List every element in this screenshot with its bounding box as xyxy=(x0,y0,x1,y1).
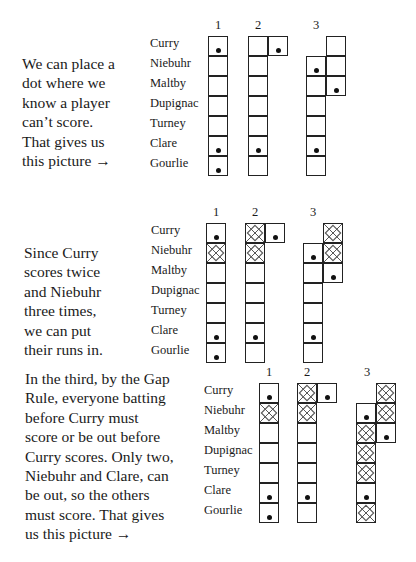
explanation-text: Since Curryscores twiceand Niebuhrthree … xyxy=(24,243,103,359)
out-cell xyxy=(206,243,226,263)
score-cell xyxy=(208,76,228,96)
score-cell xyxy=(259,423,279,443)
explanation-text: We can place adot where weknow a playerc… xyxy=(22,54,115,170)
explanation-text: In the third, by the GapRule, everyone b… xyxy=(25,369,174,544)
score-cell xyxy=(306,156,326,176)
player-names: CurryNiebuhrMaltbyDupignacTurneyClareGou… xyxy=(204,380,253,520)
score-cell xyxy=(245,343,265,363)
out-cell xyxy=(297,403,317,423)
score-cell xyxy=(248,36,268,56)
no-score-cell xyxy=(208,36,228,56)
score-cell xyxy=(306,116,326,136)
score-cell xyxy=(303,303,323,323)
text-line: know a player xyxy=(22,93,115,112)
text-line: That gives us xyxy=(22,132,115,151)
crossed-diamond-icon xyxy=(324,244,342,262)
player-name: Niebuhr xyxy=(204,400,253,420)
no-score-cell xyxy=(265,223,285,243)
no-score-cell xyxy=(356,403,376,423)
player-names: CurryNiebuhrMaltbyDupignacTurneyClareGou… xyxy=(150,33,199,173)
crossed-diamond-icon xyxy=(357,424,375,442)
score-cell xyxy=(206,283,226,303)
text-line: this picture → xyxy=(22,151,115,170)
no-score-cell xyxy=(245,323,265,343)
crossed-diamond-icon xyxy=(298,384,316,402)
innings-label: 3 xyxy=(303,205,323,220)
text-line: we can put xyxy=(24,321,103,340)
score-cell xyxy=(306,76,326,96)
score-cell xyxy=(306,96,326,116)
no-score-cell xyxy=(259,483,279,503)
crossed-diamond-icon xyxy=(207,244,225,262)
out-cell xyxy=(356,503,376,523)
out-cell xyxy=(376,403,396,423)
crossed-diamond-icon xyxy=(377,384,395,402)
innings-label: 2 xyxy=(297,365,317,380)
player-name: Curry xyxy=(151,220,200,240)
crossed-diamond-icon xyxy=(246,224,264,242)
out-cell xyxy=(259,403,279,423)
player-name: Clare xyxy=(204,480,253,500)
score-cell xyxy=(297,423,317,443)
out-cell xyxy=(297,383,317,403)
player-name: Maltby xyxy=(151,260,200,280)
score-cell xyxy=(248,96,268,116)
text-line: Curry scores. Only two, xyxy=(25,447,174,466)
player-name: Curry xyxy=(150,33,199,53)
text-line: Niebuhr and Clare, can xyxy=(25,466,174,485)
no-score-cell xyxy=(208,156,228,176)
text-line: score or be out before xyxy=(25,427,174,446)
no-score-cell xyxy=(259,383,279,403)
player-name: Gourlie xyxy=(150,153,199,173)
score-cell xyxy=(303,343,323,363)
score-cell xyxy=(206,303,226,323)
score-cell xyxy=(297,503,317,523)
crossed-diamond-icon xyxy=(357,464,375,482)
no-score-cell xyxy=(303,323,323,343)
no-score-cell xyxy=(206,223,226,243)
no-score-cell xyxy=(323,263,343,283)
innings-label: 2 xyxy=(248,18,268,33)
crossed-diamond-icon xyxy=(357,504,375,522)
out-cell xyxy=(245,223,265,243)
player-name: Niebuhr xyxy=(151,240,200,260)
score-cell xyxy=(208,96,228,116)
no-score-cell xyxy=(206,343,226,363)
player-names: CurryNiebuhrMaltbyDupignacTurneyClareGou… xyxy=(151,220,200,360)
score-cell xyxy=(303,263,323,283)
no-score-cell xyxy=(208,136,228,156)
out-cell xyxy=(356,423,376,443)
innings-label: 1 xyxy=(259,365,279,380)
text-line: Rule, everyone batting xyxy=(25,388,174,407)
score-cell xyxy=(245,263,265,283)
out-cell xyxy=(323,243,343,263)
player-name: Turney xyxy=(204,460,253,480)
text-line: scores twice xyxy=(24,262,103,281)
score-cell xyxy=(245,283,265,303)
player-name: Gourlie xyxy=(151,340,200,360)
score-cell xyxy=(248,116,268,136)
score-cell xyxy=(259,443,279,463)
score-cell xyxy=(206,263,226,283)
no-score-cell xyxy=(206,323,226,343)
player-name: Clare xyxy=(150,133,199,153)
player-name: Dupignac xyxy=(150,93,199,113)
player-name: Gourlie xyxy=(204,500,253,520)
text-line: before Curry must xyxy=(25,408,174,427)
no-score-cell xyxy=(376,423,396,443)
player-name: Niebuhr xyxy=(150,53,199,73)
text-line: In the third, by the Gap xyxy=(25,369,174,388)
innings-label: 3 xyxy=(306,18,326,33)
no-score-cell xyxy=(326,76,346,96)
score-cell xyxy=(326,36,346,56)
out-cell xyxy=(245,243,265,263)
text-line: three times, xyxy=(24,301,103,320)
crossed-diamond-icon xyxy=(298,404,316,422)
player-name: Dupignac xyxy=(204,440,253,460)
innings-label: 1 xyxy=(208,18,228,33)
score-cell xyxy=(303,283,323,303)
out-cell xyxy=(356,463,376,483)
score-cell xyxy=(248,76,268,96)
player-name: Maltby xyxy=(150,73,199,93)
innings-label: 1 xyxy=(206,205,226,220)
